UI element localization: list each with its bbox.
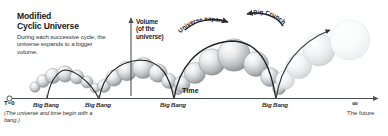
origin-note: (The universe and time begin with a bang…	[4, 110, 100, 124]
cyclic-universe-diagram: Modified Cyclic Universe During each suc…	[0, 0, 388, 136]
origin-label: T=0	[4, 100, 15, 106]
big-bang-label-2: Big Bang	[85, 101, 111, 108]
big-bang-label-4: Big Bang	[262, 101, 288, 108]
svg-text:Universe expands: Universe expands	[0, 0, 224, 34]
universe-expands-label: Universe expands	[0, 0, 224, 34]
infinity-symbol: ∞	[352, 99, 358, 108]
big-bang-label-3: Big Bang	[160, 101, 186, 108]
big-bang-label-1: Big Bang	[33, 101, 59, 108]
future-label: The future	[347, 110, 374, 116]
svg-text:Big Crunch: Big Crunch	[253, 8, 288, 26]
big-crunch-label: Big Crunch	[253, 8, 288, 26]
